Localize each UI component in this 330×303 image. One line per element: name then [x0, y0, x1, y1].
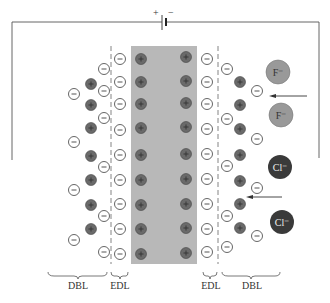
fluoride-ion-2: F⁻: [269, 103, 293, 127]
battery-minus-label: −: [168, 7, 174, 18]
braces: [48, 272, 280, 279]
diagram-canvas: + −: [0, 0, 330, 303]
arrow-left-icon: [246, 195, 282, 199]
right-edl-negative-charges: [202, 54, 213, 258]
left-edl-negative-charges: [115, 54, 126, 260]
chloride-ion-2: Cl⁻: [270, 210, 294, 234]
svg-text:F⁻: F⁻: [273, 67, 284, 78]
cdi-diagram: + −: [0, 0, 330, 303]
battery-plus-label: +: [153, 7, 159, 18]
fluoride-ion-1: F⁻: [266, 60, 290, 84]
right-dbl-charges: [222, 64, 263, 253]
svg-text:Cl⁻: Cl⁻: [275, 217, 289, 228]
right-dbl-label: DBL: [242, 280, 262, 291]
left-dbl-charges: [69, 64, 110, 258]
arrow-left-icon: [269, 94, 307, 98]
right-edl-label: EDL: [201, 280, 220, 291]
battery-icon: [162, 15, 166, 30]
chloride-ion-1: Cl⁻: [268, 155, 292, 179]
left-dbl-label: DBL: [68, 280, 88, 291]
left-edl-label: EDL: [110, 280, 129, 291]
svg-text:F⁻: F⁻: [276, 110, 287, 121]
svg-text:Cl⁻: Cl⁻: [273, 162, 287, 173]
